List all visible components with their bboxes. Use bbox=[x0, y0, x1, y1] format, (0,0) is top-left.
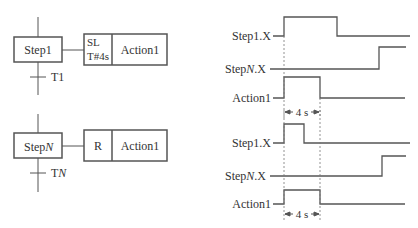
qualifier-r: R bbox=[94, 139, 102, 153]
stepn-label: StepN bbox=[24, 140, 54, 154]
timing-top-step1-label: Step1.X bbox=[232, 29, 271, 43]
timing-top-stepn-label: StepN.X bbox=[225, 62, 266, 76]
timing-bottom-duration-label: 4 s bbox=[296, 208, 309, 220]
sfc-timing-diagram: Step1 T1 SL T#4s Action1 StepN TN R Acti… bbox=[0, 0, 418, 228]
waveform-top-stepn bbox=[270, 47, 406, 69]
timing-bottom-waveforms bbox=[270, 124, 410, 204]
waveform-top-action1 bbox=[273, 77, 405, 98]
transition-t1-label: T1 bbox=[51, 70, 64, 84]
timing-bottom-labels: Step1.X StepN.X Action1 bbox=[225, 136, 271, 211]
step1-label: Step1 bbox=[24, 43, 51, 57]
timing-bottom-step1-label: Step1.X bbox=[232, 136, 271, 150]
timing-top-action1-label: Action1 bbox=[232, 91, 271, 105]
waveform-bottom-stepn bbox=[270, 156, 406, 176]
qualifier-sl: SL bbox=[87, 36, 100, 48]
timing-top-labels: Step1.X StepN.X Action1 bbox=[225, 29, 271, 105]
action1-label-bottom: Action1 bbox=[121, 139, 160, 153]
transition-tn-label: TN bbox=[51, 166, 67, 180]
qualifier-time: T#4s bbox=[87, 50, 109, 62]
timing-top-duration-label: 4 s bbox=[296, 106, 309, 118]
timing-top-waveforms bbox=[270, 17, 410, 98]
action1-label-top: Action1 bbox=[121, 43, 160, 57]
waveform-bottom-step1 bbox=[273, 124, 410, 143]
diagram-canvas: Step1 T1 SL T#4s Action1 StepN TN R Acti… bbox=[0, 0, 418, 228]
waveform-top-step1 bbox=[273, 17, 410, 36]
timing-bottom-stepn-label: StepN.X bbox=[225, 169, 266, 183]
timing-bottom-action1-label: Action1 bbox=[232, 197, 271, 211]
timing-bottom-guides bbox=[284, 110, 320, 222]
waveform-bottom-action1 bbox=[273, 190, 405, 204]
